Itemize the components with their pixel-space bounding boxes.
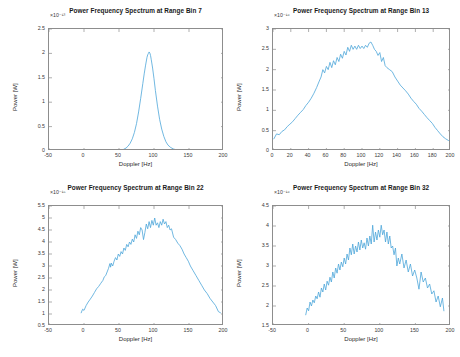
x-tick-label: 140	[392, 152, 401, 158]
y-tick-label: 1	[20, 310, 45, 316]
x-tick-label: 150	[184, 327, 193, 333]
y-axis-exponent-label: ×10⁻¹³	[50, 12, 65, 18]
y-tick-label: 2	[20, 49, 45, 55]
subplot-title: Power Frequency Spectrum at Range Bin 22	[48, 184, 223, 191]
x-tick-label: 0	[271, 152, 274, 158]
plot-area	[48, 28, 223, 150]
y-tick-label: 2.5	[20, 25, 45, 31]
x-tick-label: 100	[149, 152, 158, 158]
x-tick-label: 80	[340, 152, 346, 158]
y-tick-label: 3	[244, 262, 269, 268]
plot-area	[272, 28, 450, 150]
y-tick-label: 1.5	[244, 322, 269, 328]
subplot-title: Power Frequency Spectrum at Range Bin 32	[272, 184, 450, 191]
y-tick-label: 1.5	[20, 74, 45, 80]
y-tick-label: 1	[244, 106, 269, 112]
y-axis-label: Power [W]	[12, 83, 18, 111]
plot-canvas	[273, 29, 450, 150]
y-axis-label: Power [W]	[236, 259, 242, 287]
x-tick-label: 50	[115, 327, 121, 333]
x-tick-label: 40	[305, 152, 311, 158]
subplot-title: Power Frequency Spectrum at Range Bin 7	[48, 7, 223, 14]
y-tick-label: 0.5	[20, 123, 45, 129]
x-tick-label: 200	[219, 327, 228, 333]
y-tick-label: 1.5	[244, 86, 269, 92]
subplot-range-bin-32: Power Frequency Spectrum at Range Bin 32…	[230, 178, 460, 357]
x-tick-label: 100	[149, 327, 158, 333]
x-tick-label: 120	[374, 152, 383, 158]
x-tick-label: 200	[446, 152, 455, 158]
x-axis-label: Doppler [Hz]	[272, 161, 450, 167]
x-tick-label: 50	[340, 327, 346, 333]
plot-area	[48, 205, 223, 325]
subplot-range-bin-7: Power Frequency Spectrum at Range Bin 7×…	[0, 0, 230, 178]
y-tick-label: 0	[20, 147, 45, 153]
y-tick-label: 4.5	[20, 226, 45, 232]
x-tick-label: -50	[268, 327, 276, 333]
x-tick-label: 0	[82, 152, 85, 158]
y-axis-exponent-label: ×10⁻¹⁵	[50, 189, 66, 195]
x-tick-label: 100	[357, 152, 366, 158]
data-series-line	[81, 218, 220, 313]
x-axis-label: Doppler [Hz]	[48, 161, 223, 167]
x-tick-label: 200	[446, 327, 455, 333]
y-tick-label: 2.5	[244, 282, 269, 288]
y-axis-label: Power [W]	[12, 259, 18, 287]
plot-canvas	[49, 29, 223, 150]
y-tick-label: 4	[20, 238, 45, 244]
x-tick-label: 50	[115, 152, 121, 158]
subplot-range-bin-13: Power Frequency Spectrum at Range Bin 13…	[230, 0, 460, 178]
y-tick-label: 2.5	[20, 274, 45, 280]
y-tick-label: 2.5	[244, 45, 269, 51]
y-tick-label: 3.5	[244, 242, 269, 248]
tick-marks	[273, 206, 450, 325]
y-axis-label: Power [W]	[236, 83, 242, 111]
y-axis-exponent-label: ×10⁻¹⁶	[274, 12, 290, 18]
x-tick-label: 160	[410, 152, 419, 158]
y-tick-label: 2	[244, 66, 269, 72]
x-tick-label: 20	[287, 152, 293, 158]
y-axis-exponent-label: ×10⁻¹⁶	[274, 189, 290, 195]
subplot-title: Power Frequency Spectrum at Range Bin 13	[272, 7, 450, 14]
y-tick-label: 5	[20, 214, 45, 220]
x-tick-label: 0	[82, 327, 85, 333]
x-tick-label: -50	[44, 327, 52, 333]
x-tick-label: 100	[374, 327, 383, 333]
y-tick-label: 4	[244, 222, 269, 228]
data-series-line	[274, 42, 450, 141]
y-tick-label: 0.5	[244, 127, 269, 133]
matlab-figure: Power Frequency Spectrum at Range Bin 7×…	[0, 0, 460, 357]
data-series-line	[50, 52, 222, 150]
plot-area	[272, 205, 450, 325]
y-tick-label: 3.5	[20, 250, 45, 256]
y-tick-label: 3	[20, 262, 45, 268]
subplot-range-bin-22: Power Frequency Spectrum at Range Bin 22…	[0, 178, 230, 357]
plot-canvas	[273, 206, 450, 325]
x-tick-label: 60	[322, 152, 328, 158]
y-tick-label: 5.5	[20, 202, 45, 208]
x-tick-label: 150	[184, 152, 193, 158]
x-tick-label: 150	[410, 327, 419, 333]
y-tick-label: 0	[244, 147, 269, 153]
y-tick-label: 2	[244, 302, 269, 308]
data-series-line	[306, 225, 444, 315]
y-tick-label: 1.5	[20, 298, 45, 304]
tick-marks	[49, 29, 223, 150]
y-tick-label: 0.5	[20, 322, 45, 328]
tick-marks	[49, 206, 223, 325]
x-tick-label: 0	[306, 327, 309, 333]
x-axis-label: Doppler [Hz]	[272, 336, 450, 342]
x-tick-label: 200	[219, 152, 228, 158]
plot-canvas	[49, 206, 223, 325]
x-tick-label: 180	[428, 152, 437, 158]
y-tick-label: 2	[20, 286, 45, 292]
x-tick-label: -50	[44, 152, 52, 158]
y-tick-label: 4.5	[244, 202, 269, 208]
x-axis-label: Doppler [Hz]	[48, 336, 223, 342]
y-tick-label: 1	[20, 98, 45, 104]
y-tick-label: 3	[244, 25, 269, 31]
